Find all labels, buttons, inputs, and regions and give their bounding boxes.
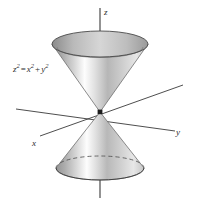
figure-container: z y x z2=x2+y2 [0, 0, 198, 209]
upper-cone [52, 31, 148, 112]
lower-cone [56, 112, 144, 180]
double-cone-diagram [0, 0, 198, 209]
z-axis-label: z [104, 8, 108, 17]
origin-vertex-point [98, 110, 103, 115]
equation-equals-sign: = [20, 64, 27, 74]
equation-rhs2-exponent: 2 [45, 62, 48, 69]
y-axis-label: y [176, 128, 180, 137]
x-axis-label: x [32, 139, 36, 148]
surface-equation-label: z2=x2+y2 [13, 65, 48, 74]
lower-cone-body [56, 112, 144, 180]
